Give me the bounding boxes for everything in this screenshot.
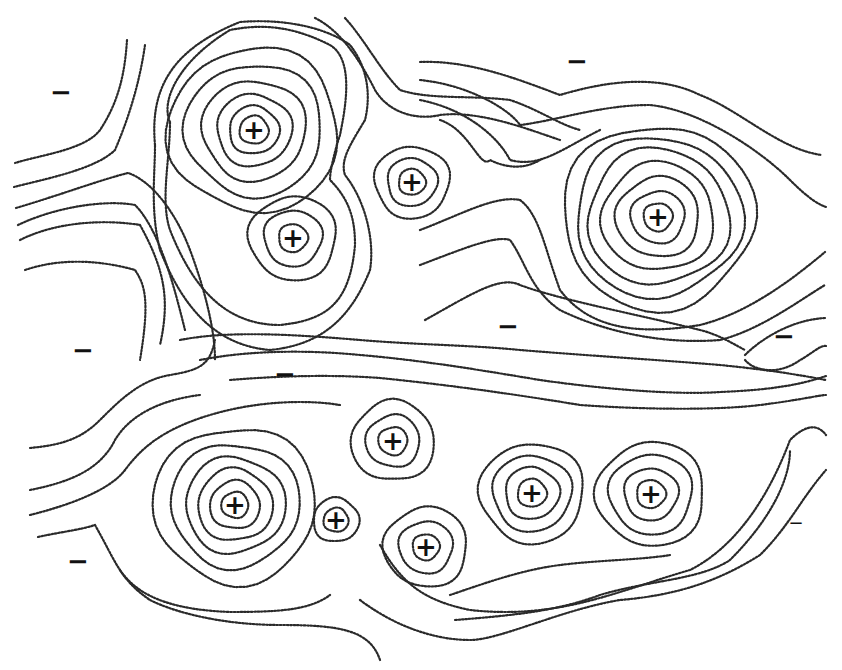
negative-charge-icon: − — [274, 361, 296, 387]
positive-charge-icon: + — [401, 169, 423, 195]
negative-charge-icon: − — [773, 323, 795, 349]
negative-charge-icon: − — [67, 548, 89, 574]
positive-charge-icon: + — [647, 204, 669, 230]
positive-charge-icon: + — [521, 480, 543, 506]
positive-charge-icon: + — [282, 225, 304, 251]
faint-caption-strip — [0, 658, 842, 670]
negative-charge-icon: − — [497, 313, 519, 339]
positive-charge-icon: + — [640, 481, 662, 507]
negative-charge-icon: − — [72, 337, 94, 363]
contour-diagram — [0, 0, 842, 670]
negative-charge-icon: − — [788, 514, 803, 532]
outer-contour-lines — [14, 18, 826, 660]
negative-charge-icon: − — [566, 48, 588, 74]
positive-charge-icon: + — [415, 534, 437, 560]
positive-charge-icon: + — [243, 117, 265, 143]
negative-charge-icon: − — [50, 79, 72, 105]
positive-charge-icon: + — [325, 507, 347, 533]
positive-charge-icon: + — [224, 492, 246, 518]
positive-charge-icon: + — [382, 428, 404, 454]
